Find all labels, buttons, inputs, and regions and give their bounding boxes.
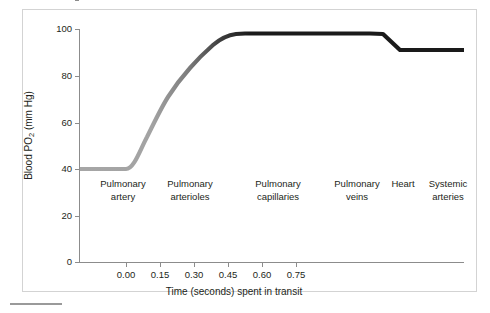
region-label-pulmonary-artery-line1: Pulmonary xyxy=(86,178,160,191)
region-label-pulmonary-arterioles-line2: arterioles xyxy=(150,191,230,204)
region-label-pulmonary-capillaries: Pulmonary capillaries xyxy=(237,178,319,203)
region-label-pulmonary-artery: Pulmonary artery xyxy=(86,178,160,203)
blood-po2-curve xyxy=(0,0,490,313)
region-label-pulmonary-arterioles-line1: Pulmonary xyxy=(150,178,230,191)
blood-po2-curve-path xyxy=(80,34,464,170)
region-label-pulmonary-arterioles: Pulmonary arterioles xyxy=(150,178,230,203)
region-label-pulmonary-capillaries-line2: capillaries xyxy=(237,191,319,204)
region-label-pulmonary-veins-line2: veins xyxy=(320,191,394,204)
region-label-systemic-arteries: Systemic arteries xyxy=(415,178,481,203)
region-label-pulmonary-capillaries-line1: Pulmonary xyxy=(237,178,319,191)
region-label-systemic-arteries-line1: Systemic xyxy=(415,178,481,191)
chart-plot-area: 100 80 60 40 20 0 0.00 0.15 0.30 0.45 0.… xyxy=(0,0,490,313)
region-label-pulmonary-artery-line2: artery xyxy=(86,191,160,204)
region-label-systemic-arteries-line2: arteries xyxy=(415,191,481,204)
